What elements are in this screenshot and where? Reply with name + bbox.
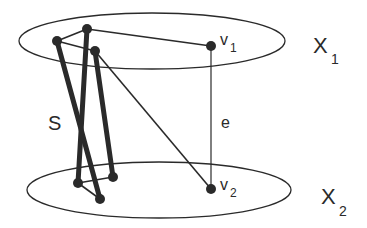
vertex-v1: [206, 41, 216, 51]
vertex-v2-subscript: 2: [230, 186, 237, 200]
set-x2-ellipse: [27, 162, 291, 218]
vertex-v1-label: v: [220, 31, 228, 48]
subgraph-s-edges: [57, 29, 113, 199]
vertex-v1-subscript: 1: [230, 41, 237, 55]
vertex-v2-label: v: [220, 176, 228, 193]
graph-diagram: v 1 v 2 e S X 1 X 2: [0, 0, 367, 228]
set-x1-label: X: [313, 33, 328, 58]
edge-e-label: e: [221, 114, 230, 131]
set-x1-subscript: 1: [331, 51, 339, 67]
set-x2-label: X: [321, 184, 336, 209]
vertex-v2: [206, 184, 216, 194]
subgraph-s-label: S: [48, 112, 61, 134]
set-x2-subscript: 2: [339, 203, 347, 219]
